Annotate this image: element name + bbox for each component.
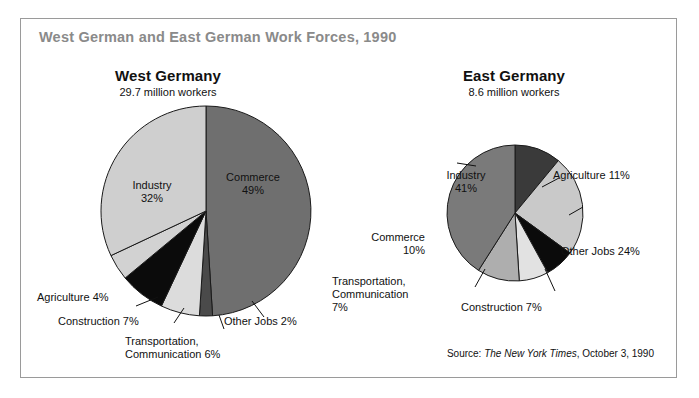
label-transportation-east-l2: Communication	[332, 288, 408, 300]
pie-label-transportation-west: Transportation, Communication 6%	[125, 335, 220, 361]
panel-title-west: West Germany	[73, 67, 263, 84]
pie-label-construction-west: Construction 7%	[58, 315, 139, 328]
label-industry-east-name: Industry	[446, 169, 485, 181]
pie-label-transportation-east: Transportation, Communication 7%	[332, 275, 408, 314]
label-transportation-west-l1: Transportation,	[125, 335, 199, 347]
source-note: Source: The New York Times, October 3, 1…	[447, 348, 654, 359]
pie-label-agriculture-east: Agriculture 11%	[553, 169, 630, 182]
pie-label-commerce-east: Commerce 10%	[345, 231, 425, 257]
pie-label-other-jobs-east: Other Jobs 24%	[561, 245, 640, 258]
label-commerce-west-pct: 49%	[242, 184, 264, 196]
panel-header-east: East Germany 8.6 million workers	[419, 67, 609, 98]
label-commerce-west-name: Commerce	[226, 171, 280, 183]
source-prefix: Source:	[447, 348, 481, 359]
label-transportation-east-pct: 7%	[332, 301, 348, 313]
page-title: West German and East German Work Forces,…	[39, 29, 396, 45]
label-industry-east-pct: 41%	[455, 182, 477, 194]
label-transportation-west-l2: Communication 6%	[125, 348, 220, 360]
pie-label-other-jobs-west: Other Jobs 2%	[224, 315, 297, 328]
panel-header-west: West Germany 29.7 million workers	[73, 67, 263, 98]
pie-svg-west	[96, 101, 326, 323]
pie-svg-east	[423, 141, 603, 301]
panel-subtitle-east: 8.6 million workers	[419, 86, 609, 98]
pie-chart-west	[96, 101, 326, 323]
label-commerce-east-pct: 10%	[403, 244, 425, 256]
pie-slice-commerce-west	[206, 106, 311, 316]
chart-frame: West German and East German Work Forces,…	[20, 18, 677, 378]
source-publication: The New York Times	[484, 348, 577, 359]
label-industry-west-name: Industry	[132, 179, 171, 191]
label-transportation-east-l1: Transportation,	[332, 275, 406, 287]
label-industry-west-pct: 32%	[141, 192, 163, 204]
pie-label-commerce-west: Commerce 49%	[213, 171, 293, 197]
panel-title-east: East Germany	[419, 67, 609, 84]
panel-subtitle-west: 29.7 million workers	[73, 86, 263, 98]
pie-label-industry-east: Industry 41%	[433, 169, 499, 195]
label-commerce-east-name: Commerce	[371, 231, 425, 243]
pie-label-construction-east: Construction 7%	[461, 301, 542, 314]
pie-label-industry-west: Industry 32%	[119, 179, 185, 205]
pie-label-agriculture-west: Agriculture 4%	[37, 291, 109, 304]
pie-chart-east	[423, 141, 603, 301]
source-date: , October 3, 1990	[577, 348, 654, 359]
